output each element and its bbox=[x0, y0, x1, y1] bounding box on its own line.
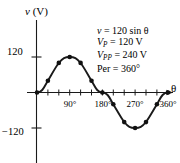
annotation-equation: v = 120 sin θ bbox=[97, 25, 149, 36]
data-point bbox=[67, 55, 72, 60]
y-axis-title-unit: (V) bbox=[30, 5, 48, 17]
annotation-peak-to-peak-voltage: VPP = 240 V bbox=[97, 49, 149, 62]
x-tick-label-360: 360° bbox=[152, 100, 180, 109]
data-point bbox=[46, 79, 51, 84]
x-axis-title: θ bbox=[171, 83, 176, 94]
x-tick-label-90: 90° bbox=[54, 100, 86, 109]
data-point bbox=[133, 126, 138, 131]
data-point bbox=[144, 120, 149, 125]
sine-waveform-figure: v (V) 120 −120 θ 90° 180° 270° 360° v = … bbox=[0, 0, 180, 163]
y-tick-label-positive: 120 bbox=[7, 47, 23, 58]
annotation-period: Per = 360° bbox=[97, 63, 149, 74]
data-point bbox=[57, 61, 62, 66]
annotation-peak-voltage: VP = 120 V bbox=[97, 36, 149, 49]
x-tick-label-270: 270° bbox=[119, 100, 151, 109]
data-point bbox=[166, 90, 171, 95]
data-point bbox=[122, 120, 127, 125]
data-point bbox=[78, 61, 83, 66]
plot-canvas bbox=[0, 0, 180, 163]
x-tick-label-180: 180° bbox=[87, 100, 119, 109]
y-tick-label-negative: −120 bbox=[2, 127, 24, 138]
equation-annotation-block: v = 120 sin θ VP = 120 V VPP = 240 V Per… bbox=[97, 25, 149, 74]
y-axis-title: v (V) bbox=[25, 6, 48, 17]
data-point bbox=[89, 79, 94, 84]
data-point bbox=[35, 90, 40, 95]
data-point bbox=[100, 90, 105, 95]
